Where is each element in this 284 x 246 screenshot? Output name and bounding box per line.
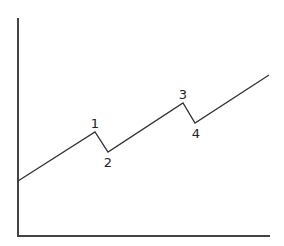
zigzag-line (18, 75, 269, 181)
zigzag-line-diagram: 1234 (0, 0, 284, 246)
point-label-2: 2 (104, 155, 112, 170)
point-label-3: 3 (179, 87, 187, 102)
point-label-1: 1 (91, 116, 99, 131)
point-label-4: 4 (192, 126, 200, 141)
point-labels: 1234 (91, 87, 200, 170)
